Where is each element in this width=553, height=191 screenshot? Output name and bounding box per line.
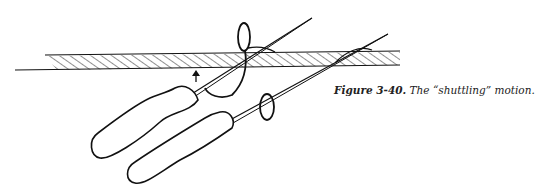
caption-text: The “shuttling” motion.	[410, 84, 535, 96]
figure: Figure 3-40. The “shuttling” motion.	[0, 0, 553, 191]
figure-caption: Figure 3-40. The “shuttling” motion.	[334, 84, 535, 96]
caption-label: Figure 3-40.	[334, 84, 406, 96]
thread-loop-top	[238, 23, 250, 51]
thread-loop-bottom	[260, 94, 274, 120]
